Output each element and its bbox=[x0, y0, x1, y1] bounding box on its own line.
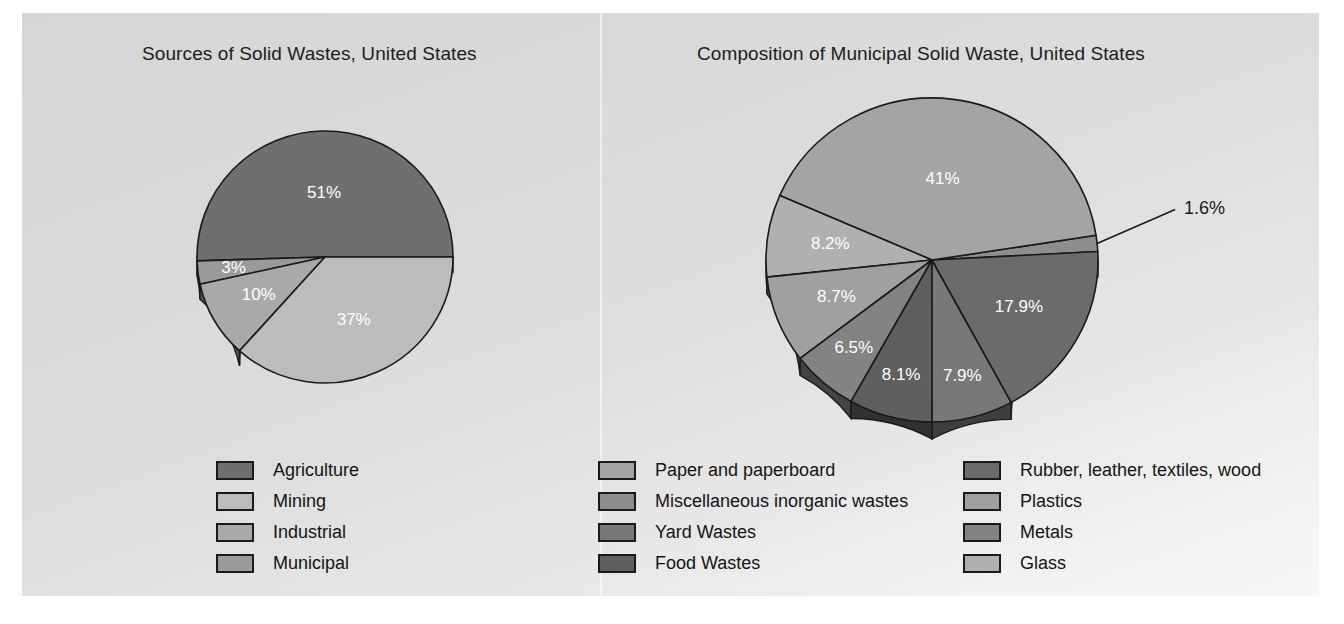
pie-slice-label: 8.1% bbox=[882, 365, 921, 384]
legend-item-label: Food Wastes bbox=[655, 553, 760, 574]
pie-slice-label: 17.9% bbox=[995, 297, 1043, 316]
pie-slice-label: 41% bbox=[926, 169, 960, 188]
pie-slice-label: 6.5% bbox=[834, 338, 873, 357]
figure-canvas: Sources of Solid Wastes, United States C… bbox=[0, 0, 1344, 624]
pie-slice-label: 8.2% bbox=[811, 234, 850, 253]
legend-item-label: Industrial bbox=[273, 522, 346, 543]
legend-item: Glass bbox=[963, 548, 1261, 579]
pie-slice-label: 10% bbox=[242, 285, 276, 304]
legend-item: Plastics bbox=[963, 486, 1261, 517]
legend-item-label: Mining bbox=[273, 491, 326, 512]
left-chart-title: Sources of Solid Wastes, United States bbox=[142, 43, 477, 65]
left-legend-swatch-3 bbox=[216, 554, 254, 573]
left-pie-chart: 51%3%10%37% bbox=[155, 85, 505, 445]
pie-slice-label: 37% bbox=[337, 310, 371, 329]
legend-item: Food Wastes bbox=[598, 548, 908, 579]
right-legend-a-swatch-0 bbox=[598, 461, 636, 480]
right-legend-b-swatch-2 bbox=[963, 523, 1001, 542]
right-legend-a-swatch-1 bbox=[598, 492, 636, 511]
legend-item-label: Yard Wastes bbox=[655, 522, 756, 543]
right-chart-legend-column-2: Rubber, leather, textiles, woodPlasticsM… bbox=[963, 455, 1261, 579]
right-legend-b-swatch-0 bbox=[963, 461, 1001, 480]
left-legend-swatch-0 bbox=[216, 461, 254, 480]
legend-item-label: Paper and paperboard bbox=[655, 460, 835, 481]
right-legend-a-swatch-3 bbox=[598, 554, 636, 573]
legend-item-label: Agriculture bbox=[273, 460, 359, 481]
right-pie-svg: 41%8.2%8.7%6.5%8.1%7.9%17.9%1.6% bbox=[750, 82, 1210, 462]
left-chart-legend: AgricultureMiningIndustrialMunicipal bbox=[216, 455, 359, 579]
legend-item: Mining bbox=[216, 486, 359, 517]
legend-item: Agriculture bbox=[216, 455, 359, 486]
right-chart-title: Composition of Municipal Solid Waste, Un… bbox=[697, 43, 1145, 65]
left-pie-svg: 51%3%10%37% bbox=[155, 85, 505, 445]
legend-item-label: Metals bbox=[1020, 522, 1073, 543]
legend-item-label: Rubber, leather, textiles, wood bbox=[1020, 460, 1261, 481]
legend-item-label: Miscellaneous inorganic wastes bbox=[655, 491, 908, 512]
left-legend-swatch-1 bbox=[216, 492, 254, 511]
legend-item: Industrial bbox=[216, 517, 359, 548]
legend-item: Miscellaneous inorganic wastes bbox=[598, 486, 908, 517]
legend-item-label: Glass bbox=[1020, 553, 1066, 574]
right-pie-chart: 41%8.2%8.7%6.5%8.1%7.9%17.9%1.6% bbox=[750, 82, 1210, 462]
pie-slice-label: 51% bbox=[307, 183, 341, 202]
pie-slice-label: 8.7% bbox=[817, 287, 856, 306]
pie-label-leader-line bbox=[1097, 209, 1175, 243]
legend-item: Paper and paperboard bbox=[598, 455, 908, 486]
legend-item: Municipal bbox=[216, 548, 359, 579]
right-chart-legend-column-1: Paper and paperboardMiscellaneous inorga… bbox=[598, 455, 908, 579]
right-legend-a-swatch-2 bbox=[598, 523, 636, 542]
pie-slice-label: 3% bbox=[221, 258, 246, 277]
legend-item: Yard Wastes bbox=[598, 517, 908, 548]
legend-item: Metals bbox=[963, 517, 1261, 548]
legend-item-label: Municipal bbox=[273, 553, 349, 574]
legend-item-label: Plastics bbox=[1020, 491, 1082, 512]
legend-item: Rubber, leather, textiles, wood bbox=[963, 455, 1261, 486]
right-legend-b-swatch-1 bbox=[963, 492, 1001, 511]
pie-outside-label: 1.6% bbox=[1184, 198, 1225, 218]
pie-slice-label: 7.9% bbox=[943, 366, 982, 385]
right-legend-b-swatch-3 bbox=[963, 554, 1001, 573]
left-legend-swatch-2 bbox=[216, 523, 254, 542]
